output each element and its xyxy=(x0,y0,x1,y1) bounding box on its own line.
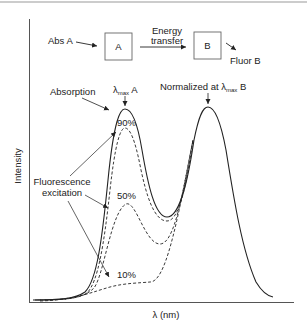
fluorescence-label: Fluorescence xyxy=(33,176,90,187)
normalized-label: Normalized at λmax B xyxy=(160,81,246,93)
abs-a-arrow xyxy=(76,42,97,46)
excitation-50-curve xyxy=(38,140,193,300)
box-b-label: B xyxy=(204,40,210,51)
y-axis-label: Intensity xyxy=(12,148,23,184)
energy-transfer-diagram: Abs A A Energy transfer B Fluor B Absorp… xyxy=(0,0,307,335)
spectra xyxy=(33,107,273,301)
pct-50-label: 50% xyxy=(117,190,137,201)
fluorescence-arrow-50 xyxy=(85,195,108,208)
x-axis-label: λ (nm) xyxy=(153,309,180,320)
transfer-label: transfer xyxy=(151,35,183,46)
abs-a-label: Abs A xyxy=(48,35,73,46)
pct-10-label: 10% xyxy=(117,269,137,280)
box-a-label: A xyxy=(115,41,122,52)
absorption-label: Absorption xyxy=(50,86,95,97)
absorption-arrow xyxy=(82,98,109,110)
excitation-90-curve xyxy=(35,128,193,300)
fluorescence-arrow-10 xyxy=(68,201,109,277)
fluor-b-label: Fluor B xyxy=(230,55,261,66)
fluor-b-arrow xyxy=(226,43,236,50)
lambda-max-a-label: λmax A xyxy=(113,84,138,96)
excitation-label: excitation xyxy=(42,187,82,198)
